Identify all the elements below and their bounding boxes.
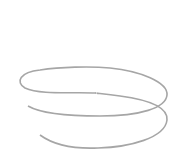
- helix-curve: [20, 67, 167, 148]
- helix-diagram: [0, 0, 176, 167]
